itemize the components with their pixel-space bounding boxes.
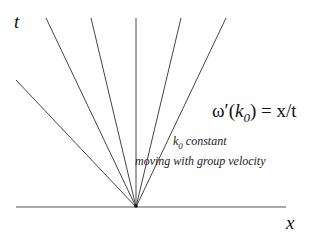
group-velocity-label: moving with group velocity	[135, 154, 266, 168]
group-velocity-rays	[16, 18, 226, 207]
group-velocity-equation: ω′(k0) = x/t	[212, 100, 297, 125]
ray-3	[91, 18, 136, 207]
ray-1	[16, 80, 136, 207]
characteristics-diagram: t x ω′(k0) = x/t k0 constant moving with…	[0, 0, 310, 239]
svg-text:ω′(k0) = x/t: ω′(k0) = x/t	[212, 100, 297, 125]
t-axis-label: t	[14, 11, 20, 32]
k0-constant-label: k0 constant	[173, 134, 227, 151]
x-axis-label: x	[285, 212, 295, 233]
annotation: k0 constant moving with group velocity	[135, 134, 266, 168]
ray-2	[46, 18, 136, 207]
origin-point	[134, 204, 138, 208]
ray-5	[136, 18, 181, 207]
